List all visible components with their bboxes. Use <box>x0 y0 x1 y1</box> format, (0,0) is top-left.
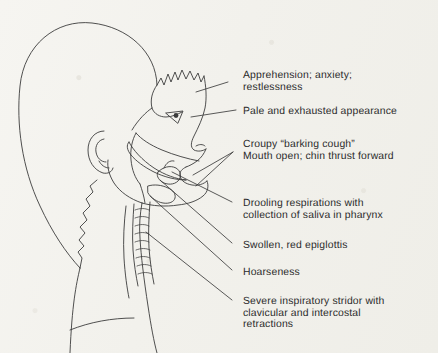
pharynx-wall <box>140 184 145 203</box>
label-pale-exhausted-appearance: Pale and exhausted appearance <box>243 106 397 118</box>
leader-lines <box>146 82 236 300</box>
label-severe-inspiratory-stridor: Severe inspiratory stridor with clavicul… <box>243 296 385 331</box>
hairline-zigzag <box>157 70 204 85</box>
jawline <box>108 160 142 203</box>
esophagus <box>124 206 129 298</box>
illustration-figure: Apprehension; anxiety; restlessness Pale… <box>0 0 438 353</box>
neck-back-contour <box>70 268 80 353</box>
pharynx-cavity <box>131 133 140 184</box>
occipital-hairline <box>78 180 97 268</box>
label-apprehension: Apprehension; anxiety; restlessness <box>243 70 352 93</box>
upper-lip <box>186 149 206 167</box>
label-swollen-red-epiglottis: Swollen, red epiglottis <box>243 240 348 252</box>
label-hoarseness: Hoarseness <box>243 267 300 279</box>
brow-line <box>132 108 152 130</box>
forehead-and-brow <box>151 85 182 117</box>
hard-and-soft-palate <box>136 133 199 161</box>
trachea-posterior-wall <box>133 204 138 286</box>
nose <box>191 76 206 151</box>
trachea-anterior-wall <box>149 202 154 284</box>
ear <box>88 131 113 173</box>
shoulder-contour <box>70 318 134 330</box>
larynx <box>148 185 175 203</box>
leader-apprehension <box>196 82 228 92</box>
leader-pale-exhausted <box>191 110 236 117</box>
leader-croupy-cough-upper <box>193 152 233 175</box>
leader-drooling <box>172 172 232 202</box>
label-croupy-barking-cough: Croupy “barking cough” Mouth open; chin … <box>243 139 394 162</box>
leader-epiglottis <box>160 180 232 243</box>
leader-stridor <box>146 232 232 300</box>
cranium-outline <box>19 23 157 268</box>
label-drooling-respirations: Drooling respirations with collection of… <box>243 198 383 221</box>
nostril <box>196 145 205 147</box>
